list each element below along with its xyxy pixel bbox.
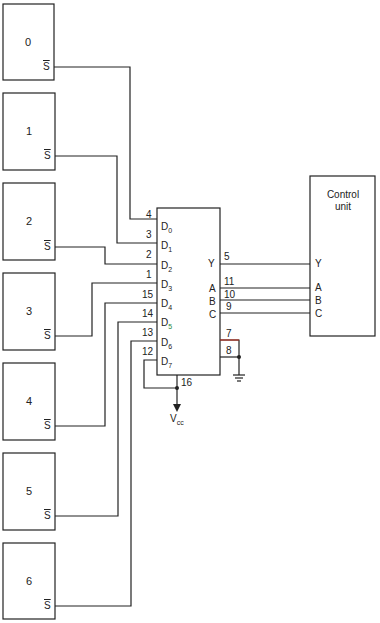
pin-number-enable: 7 <box>226 329 232 339</box>
wire-s0-d0 <box>54 67 157 219</box>
mux-input-d5: D5 <box>161 318 172 329</box>
station-label-2: 2 <box>26 216 32 226</box>
wire-s6-d6 <box>55 341 157 606</box>
pin-number-a: 11 <box>224 277 234 287</box>
control-port-y: Y <box>315 259 322 269</box>
mux-input-d4: D4 <box>161 299 172 310</box>
station-output-s-2: S <box>44 242 51 252</box>
pin-number-d0: 4 <box>146 210 152 220</box>
station-label-3: 3 <box>26 306 32 316</box>
station-label-1: 1 <box>26 126 32 136</box>
station-label-6: 6 <box>26 576 32 586</box>
station-output-s-6: S <box>44 601 51 611</box>
station-label-4: 4 <box>26 396 32 406</box>
mux-input-d6: D6 <box>161 338 172 349</box>
ground-icon <box>233 375 245 381</box>
station-label-0: 0 <box>25 37 31 47</box>
junction-dot <box>237 355 241 359</box>
station-output-s-0: S <box>43 62 50 72</box>
pin-number-d7: 12 <box>142 347 153 357</box>
pin-number-ground: 8 <box>226 346 232 356</box>
station-output-s-4: S <box>44 421 51 431</box>
control-port-a: A <box>315 283 322 293</box>
pin-number-d2: 2 <box>146 250 152 260</box>
pin-number-d5: 14 <box>142 309 153 319</box>
mux-input-d0: D0 <box>161 222 172 233</box>
pin-number-c: 9 <box>226 302 232 312</box>
control-port-c: C <box>315 309 322 319</box>
station-label-5: 5 <box>26 486 32 496</box>
control-unit-title: Control unit <box>310 189 376 213</box>
mux-input-d1: D1 <box>161 241 172 252</box>
mux-select-b: B <box>209 297 216 307</box>
pin-number-d4: 15 <box>142 290 153 300</box>
pin-number-d6: 13 <box>142 328 153 338</box>
pin-number-d1: 3 <box>146 230 152 240</box>
wire-s1-d1 <box>55 156 157 243</box>
vcc-arrow-icon <box>173 404 181 412</box>
schematic-wiring <box>0 0 380 623</box>
control-port-b: B <box>315 296 322 306</box>
station-output-s-3: S <box>44 331 51 341</box>
pin-number-b: 10 <box>224 290 235 300</box>
vcc-label: Vcc <box>170 414 184 425</box>
junction-dot <box>175 386 179 390</box>
mux-input-d3: D3 <box>161 280 172 291</box>
pin-number-d3: 1 <box>146 270 152 280</box>
station-output-s-5: S <box>44 511 51 521</box>
mux-input-d2: D2 <box>161 261 172 272</box>
mux-input-d7: D7 <box>161 357 172 368</box>
station-output-s-1: S <box>44 151 51 161</box>
mux-output-y: Y <box>208 259 215 269</box>
mux-select-c: C <box>209 310 216 320</box>
pin-number-vcc: 16 <box>181 378 192 388</box>
pin-number-y: 5 <box>224 252 230 262</box>
mux-select-a: A <box>209 284 216 294</box>
wire-s2-d2 <box>55 247 157 264</box>
